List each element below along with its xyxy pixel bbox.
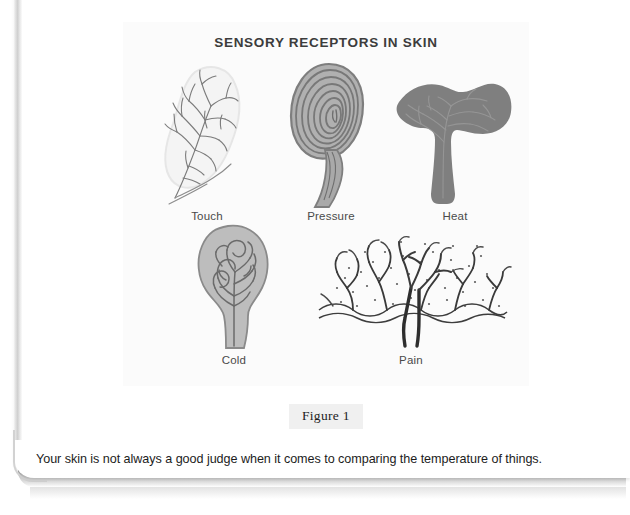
touch-receptor-icon (155, 58, 259, 208)
cold-receptor-icon (182, 222, 286, 352)
receptor-label-pain: Pain (299, 354, 523, 366)
heat-receptor-icon (391, 58, 519, 208)
page-stack-shadow-lower (30, 487, 626, 499)
pain-receptor-icon (309, 222, 513, 352)
receptor-item-touch: Touch (141, 58, 273, 222)
receptor-item-cold: Cold (169, 222, 299, 366)
receptor-item-pain: Pain (299, 222, 523, 366)
receptor-label-touch: Touch (141, 210, 273, 222)
pressure-receptor-icon (279, 58, 383, 208)
figure-caption: Figure 1 (289, 404, 363, 429)
receptor-item-heat: Heat (385, 58, 525, 222)
figure-title: SENSORY RECEPTORS IN SKIN (123, 35, 529, 50)
receptor-label-heat: Heat (385, 210, 525, 222)
receptor-item-pressure: Pressure (265, 58, 397, 222)
receptor-label-pressure: Pressure (265, 210, 397, 222)
receptor-label-cold: Cold (169, 354, 299, 366)
page-spine-edge (13, 0, 22, 440)
figure-panel: SENSORY RECEPTORS IN SKIN (123, 22, 529, 386)
body-paragraph: Your skin is not always a good judge whe… (36, 452, 610, 466)
